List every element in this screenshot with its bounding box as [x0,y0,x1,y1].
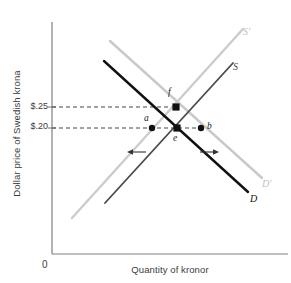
data-point-f [172,103,179,110]
chart-plot-area [0,0,291,283]
curve-label-supply-original: S [233,61,238,72]
supply-curve-shifted [72,29,243,218]
curve-label-demand-original: D [250,193,257,204]
y-axis-label: Dollar price of Swedish krona [11,59,22,209]
data-point-e [173,124,180,131]
supply-demand-chart: Dollar price of Swedish krona Quantity o… [0,0,291,283]
data-point-b [198,125,204,131]
point-label-a: a [144,113,149,123]
point-label-e: e [173,133,177,143]
x-axis-label: Quantity of kronor [110,264,230,275]
y-tick-label-20: $.20 [14,121,48,131]
curve-label-demand-shifted: D' [262,178,271,189]
data-point-a [149,125,155,131]
y-tick-label-25: $.25 [14,101,48,111]
origin-label: 0 [42,259,48,270]
point-label-f: f [168,87,171,97]
demand-curve-shifted [110,41,262,178]
curve-label-supply-shifted: S' [243,26,250,37]
point-label-b: b [207,121,212,131]
